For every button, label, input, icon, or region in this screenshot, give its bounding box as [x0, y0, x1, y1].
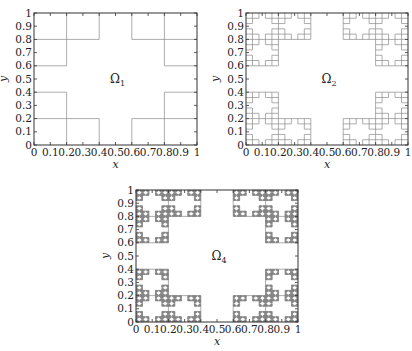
domain-label: Ω4: [211, 249, 226, 265]
y-tick-label: 0: [127, 316, 134, 328]
y-axis-label: y: [99, 252, 112, 260]
x-tick-label: 0.8: [257, 323, 274, 335]
plot-svg-omega4: 00.10.20.30.40.50.60.70.80.9100.10.20.30…: [0, 0, 412, 351]
x-tick-label: 1: [295, 323, 302, 335]
x-tick-label: 0.7: [241, 323, 258, 335]
x-tick-label: 0.3: [176, 323, 193, 335]
x-tick-label: 0.5: [209, 323, 226, 335]
y-tick-label: 0.4: [117, 263, 134, 275]
plot-panel-omega4: 00.10.20.30.40.50.60.70.80.9100.10.20.30…: [0, 0, 412, 351]
y-tick-label: 0.8: [117, 210, 134, 222]
y-tick-label: 0.9: [117, 197, 134, 209]
y-tick-label: 0.3: [117, 276, 134, 288]
x-tick-label: 0.1: [144, 323, 161, 335]
y-tick-label: 0.6: [117, 236, 134, 248]
x-axis-label: x: [214, 335, 221, 348]
x-tick-label: 0.6: [225, 323, 242, 335]
y-tick-label: 0.1: [117, 302, 134, 314]
y-tick-label: 0.2: [117, 289, 134, 301]
x-tick-label: 0.2: [160, 323, 177, 335]
x-tick-label: 0.4: [192, 323, 209, 335]
y-tick-label: 1: [127, 184, 134, 196]
x-tick-label: 0.9: [273, 323, 290, 335]
y-tick-label: 0.5: [117, 250, 134, 262]
y-tick-label: 0.7: [117, 223, 134, 235]
